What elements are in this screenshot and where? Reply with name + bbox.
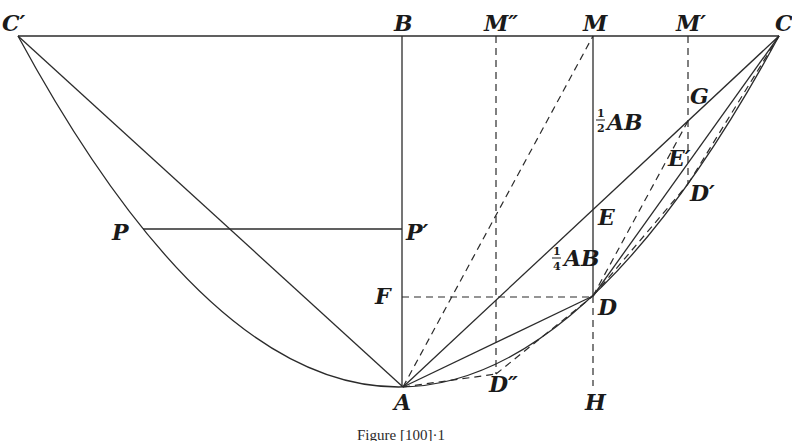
svg-text:4: 4 — [553, 260, 561, 273]
svg-text:2: 2 — [597, 122, 605, 135]
label-P: P — [111, 219, 130, 245]
figure-caption: Figure [100]·1 — [357, 427, 445, 441]
label-E: E — [597, 204, 616, 230]
chord-DprimeC — [688, 36, 779, 184]
svg-text:1: 1 — [553, 245, 561, 258]
label-D-double-prime: D″ — [488, 371, 518, 397]
label-F: F — [374, 283, 392, 309]
label-M: M — [582, 10, 608, 36]
label-D: D — [597, 294, 617, 320]
label-H: H — [584, 389, 607, 415]
label-M-double-prime: M″ — [483, 10, 518, 36]
label-G: G — [690, 83, 709, 109]
label-C-prime: C′ — [2, 10, 26, 36]
annotation-half-AB: 1 2 AB — [596, 107, 643, 135]
svg-text:1: 1 — [597, 107, 605, 120]
svg-text:AB: AB — [605, 109, 643, 135]
geometric-diagram: C′ B M″ M M′ C G E′ D′ E P P′ F D D″ A H… — [0, 0, 792, 441]
line-AM — [403, 36, 593, 387]
label-E-prime: E′ — [667, 145, 691, 171]
annotation-quarter-AB: 1 4 AB — [552, 245, 600, 273]
chord-DDprime — [593, 184, 688, 296]
label-B: B — [393, 10, 413, 36]
line-AC — [403, 36, 779, 387]
label-M-prime: M′ — [675, 10, 706, 36]
label-C: C — [775, 10, 792, 36]
svg-text:AB: AB — [562, 245, 600, 271]
label-A: A — [392, 389, 411, 415]
label-D-prime: D′ — [689, 180, 715, 206]
label-P-prime: P′ — [405, 219, 429, 245]
line-CprimeA — [18, 36, 403, 387]
